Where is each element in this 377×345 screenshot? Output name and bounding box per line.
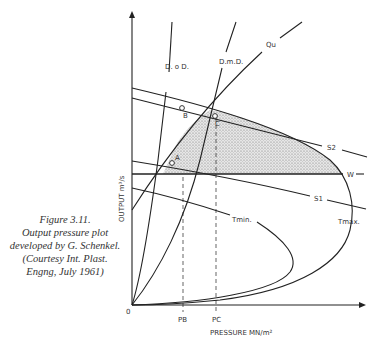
x-axis-arrow-icon — [359, 302, 366, 308]
output-pressure-diagram: A B C D. o D. D.m.D. Qu S2 W S1 Tmin. Tm… — [0, 0, 377, 345]
point-c-marker — [213, 114, 218, 119]
label-dod: D. o D. — [165, 63, 189, 71]
curve-dmd — [132, 68, 222, 305]
point-a-label: A — [175, 154, 180, 162]
point-c-label: C — [215, 120, 220, 128]
label-dmd: D.m.D. — [219, 58, 243, 66]
y-axis-arrow-icon — [129, 11, 135, 18]
operating-region — [163, 110, 342, 174]
label-s2: S2 — [327, 144, 336, 152]
label-s1: S1 — [314, 195, 323, 203]
curve-dod — [132, 92, 166, 305]
label-qu: Qu — [266, 41, 276, 49]
point-a-marker — [170, 161, 175, 166]
x-tick-pb: PB — [178, 316, 187, 324]
curve-tmin — [132, 188, 230, 215]
label-tmin: Tmin. — [231, 216, 252, 224]
point-b-label: B — [183, 112, 188, 120]
label-tmax: Tmax. — [337, 218, 360, 226]
y-axis-label: OUTPUT m³/s — [118, 175, 126, 222]
label-w: W — [347, 171, 354, 179]
x-axis-label: PRESSURE MN/m² — [210, 329, 272, 337]
point-b-marker — [180, 106, 185, 111]
origin-label: 0 — [126, 308, 130, 316]
x-tick-pc: PC — [212, 316, 221, 324]
